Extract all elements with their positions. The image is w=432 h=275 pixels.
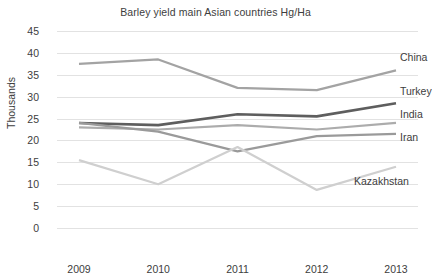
y-axis-tick-label: 30 <box>0 92 39 103</box>
chart-title: Barley yield main Asian countries Hg/Ha <box>0 6 431 18</box>
x-axis-tick-label: 2009 <box>44 264 114 275</box>
y-axis-tick-label: 25 <box>0 114 39 125</box>
series-line <box>79 59 396 90</box>
series-label-kazakhstan: Kazakhstan <box>354 176 409 187</box>
series-label-iran: Iran <box>400 132 418 143</box>
y-axis-tick-label: 35 <box>0 70 39 81</box>
y-axis-tick-label: 10 <box>0 179 39 190</box>
series-label-india: India <box>400 109 423 120</box>
y-axis-tick-label: 45 <box>0 26 39 37</box>
y-axis-tick-label: 0 <box>0 223 39 234</box>
series-label-china: China <box>400 52 427 63</box>
y-axis-tick-label: 5 <box>0 201 39 212</box>
y-axis-tick-label: 40 <box>0 48 39 59</box>
x-axis-tick-label: 2010 <box>123 264 193 275</box>
x-axis-tick-label: 2012 <box>282 264 352 275</box>
series-lines <box>57 31 418 228</box>
series-line <box>79 147 396 190</box>
y-axis-tick-label: 20 <box>0 135 39 146</box>
series-line <box>79 103 396 125</box>
y-axis-tick-label: 15 <box>0 157 39 168</box>
plot-area: 051015202530354045 20092010201120122013 … <box>57 31 418 228</box>
x-axis-tick-label: 2013 <box>361 264 431 275</box>
series-label-turkey: Turkey <box>400 86 432 97</box>
x-axis-tick-label: 2011 <box>203 264 273 275</box>
gridline <box>57 228 418 229</box>
